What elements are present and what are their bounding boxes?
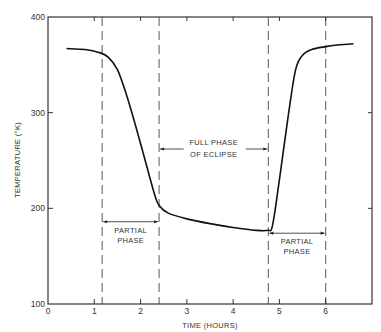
phase-annotation: FULL PHASEOF ECLIPSE — [160, 138, 267, 159]
y-tick-label: 100 — [31, 299, 45, 309]
annotation-text: PHASE — [117, 236, 144, 245]
x-tick-label: 1 — [92, 306, 97, 316]
x-tick-label: 0 — [46, 306, 51, 316]
eclipse-temperature-chart: 0123456100200300400 PARTIALPHASEFULL PHA… — [0, 0, 381, 332]
annotation-text: FULL PHASE — [189, 138, 238, 147]
y-tick-label: 300 — [31, 108, 45, 118]
x-tick-label: 5 — [277, 306, 282, 316]
x-tick-label: 2 — [138, 306, 143, 316]
annotation-text: PHASE — [284, 247, 311, 256]
x-axis-title: TIME (HOURS) — [182, 321, 238, 330]
axis-ticks: 0123456100200300400 — [31, 12, 372, 316]
annotation-text: OF ECLIPSE — [190, 150, 237, 159]
annotations: PARTIALPHASEFULL PHASEOF ECLIPSEPARTIALP… — [103, 138, 325, 256]
y-tick-label: 200 — [31, 203, 45, 213]
y-axis-title: TEMPERATURE (°K) — [13, 122, 22, 198]
x-tick-label: 3 — [184, 306, 189, 316]
phase-annotation: PARTIALPHASE — [269, 233, 324, 256]
annotation-text: PARTIAL — [281, 237, 314, 246]
annotation-text: PARTIAL — [114, 226, 147, 235]
plot-frame — [48, 17, 372, 304]
y-tick-label: 400 — [31, 12, 45, 22]
plot-border — [48, 17, 372, 304]
x-tick-label: 4 — [231, 306, 236, 316]
phase-markers — [102, 17, 326, 304]
x-tick-label: 6 — [323, 306, 328, 316]
phase-annotation: PARTIALPHASE — [103, 222, 158, 245]
